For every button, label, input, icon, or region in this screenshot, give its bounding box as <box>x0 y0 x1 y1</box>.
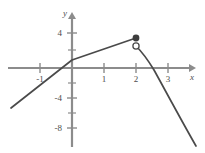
parabolic-branch-curve <box>136 46 196 146</box>
open-endpoint-marker <box>133 43 139 49</box>
x-tick-label-3: 3 <box>166 74 171 84</box>
x-tick-label-1: 1 <box>102 74 107 84</box>
y-tick-label-minus4: -4 <box>55 93 63 103</box>
closed-endpoint-marker <box>133 35 140 42</box>
graph-figure: -1 1 2 3 4 -4 -8 y x <box>0 0 205 153</box>
coordinate-plane-plot: -1 1 2 3 4 -4 -8 y x <box>0 0 205 153</box>
y-axis-label: y <box>62 8 67 18</box>
y-tick-label-4: 4 <box>58 28 63 38</box>
y-axis-arrow-icon <box>68 12 76 19</box>
y-tick-label-minus8: -8 <box>55 123 63 133</box>
x-tick-label-2: 2 <box>134 74 139 84</box>
x-tick-label-minus1: -1 <box>36 74 44 84</box>
x-axis-arrow-icon <box>189 64 196 72</box>
x-axis-label: x <box>189 72 194 82</box>
